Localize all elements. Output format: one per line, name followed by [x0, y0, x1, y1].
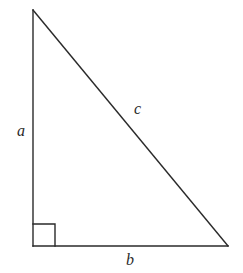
right-triangle-diagram: a c b: [0, 0, 243, 273]
label-c: c: [134, 100, 141, 117]
label-a: a: [17, 122, 25, 139]
right-angle-marker: [33, 224, 55, 246]
side-c-hypotenuse: [33, 10, 228, 246]
label-b: b: [126, 251, 134, 268]
